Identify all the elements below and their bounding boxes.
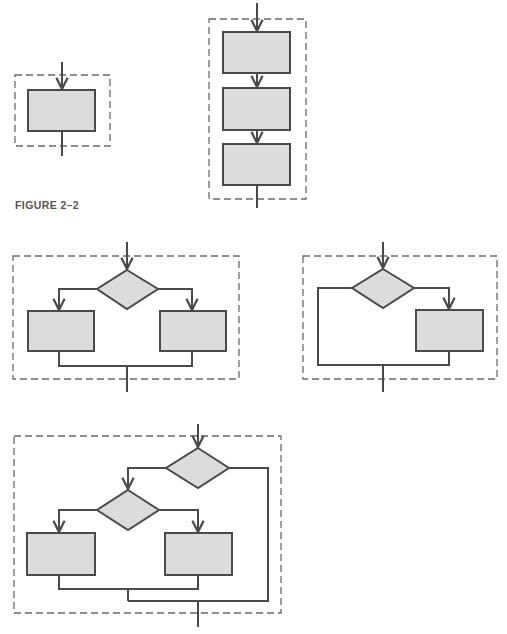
merge-line — [59, 351, 192, 366]
outer-decision-diamond — [166, 448, 229, 488]
decision-diamond — [97, 270, 158, 309]
process-box-left — [28, 311, 94, 351]
process-box-left — [27, 533, 95, 575]
dashed-boundary — [14, 436, 281, 613]
process-box-right — [160, 311, 226, 351]
structured-flowchart-figure — [0, 0, 507, 634]
true-branch-arrow — [414, 288, 449, 309]
process-box — [28, 90, 95, 131]
process-structure — [15, 62, 110, 156]
process-box-1 — [223, 32, 290, 73]
process-box-right — [165, 533, 232, 575]
if-then-else-structure — [13, 242, 239, 392]
process-box-2 — [223, 88, 290, 130]
false-branch-arrow — [59, 289, 97, 310]
if-then-structure — [303, 242, 497, 392]
inner-decision-diamond — [97, 490, 159, 530]
inner-false-branch-arrow — [59, 510, 97, 532]
true-branch-arrow — [158, 289, 192, 310]
inner-merge-line — [59, 575, 198, 589]
outer-branch-arrow — [128, 468, 166, 489]
inner-true-branch-arrow — [159, 510, 198, 532]
nested-if-structure — [14, 424, 281, 627]
decision-diamond — [352, 269, 414, 308]
sequence-structure — [209, 3, 306, 208]
process-box — [416, 310, 483, 351]
process-box-3 — [223, 144, 290, 185]
